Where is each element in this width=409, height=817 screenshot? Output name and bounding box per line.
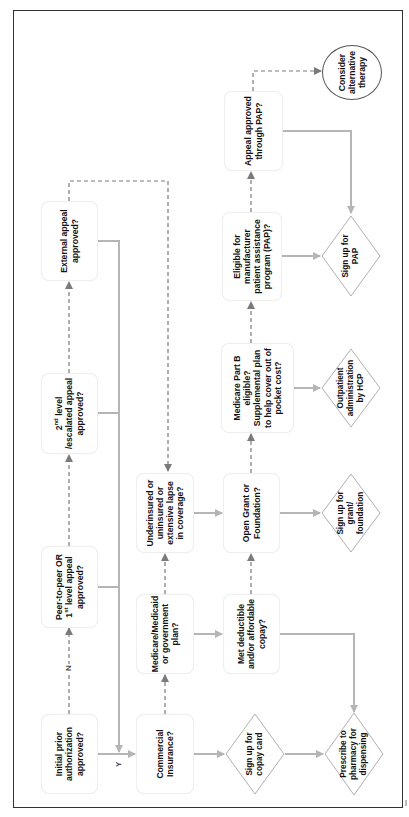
node-label: External appeal approved? [59,205,79,277]
node-prescribe-pharmacy[interactable]: Prescribe to pharmacy for dispensing [324,712,384,796]
node-label: Commercial Insurance? [155,718,175,790]
node-consider-alternative-therapy[interactable]: Consider alternative therapy [322,45,382,100]
node-sign-up-grant[interactable]: Sign up for grant/ foundation [321,473,381,553]
node-label: Sign up for grant/ foundation [321,473,381,553]
node-appeal-pap[interactable]: Appeal approved through PAP? [224,91,283,171]
edge-appeal-signpap [283,131,351,213]
node-label: Peer-to-peer OR 1st level appeal approve… [54,550,84,624]
node-commercial-insurance[interactable]: Commercial Insurance? [136,714,194,794]
edge-label-no: N [64,664,73,672]
node-label: Sign up for PAP [321,215,381,297]
node-underinsured[interactable]: Underinsured or uninsured or extensive l… [136,473,194,553]
edge-mark [405,800,407,806]
node-label: Sign up for copay card [225,713,285,795]
node-label: Outpatient administration by HCP [321,348,381,428]
edge-appeal-alternative [253,71,321,91]
edge-label-yes: Y [114,762,123,767]
node-medicare-part-b[interactable]: Medicare Part B eligible? Supplemental p… [221,343,294,433]
node-label: Appeal approved through PAP? [243,95,263,167]
node-label: Eligible for manufacturer patient assist… [232,216,273,297]
node-peer-to-peer-appeal[interactable]: Peer-to-peer OR 1st level appeal approve… [41,546,98,628]
node-label: Medicare Part B eligible? Supplemental p… [232,347,283,429]
node-label: Met deductible and/or affordable copay? [236,598,266,670]
node-label: Prescribe to pharmacy for dispensing [324,712,384,796]
node-label: Consider alternative therapy [337,51,367,94]
edge-external-return [98,241,119,751]
edge-deductible-prescribe [280,634,354,712]
node-label: Medicare/Medicaid or government plan? [150,596,180,672]
node-label: Initial prior authorization approved? [54,718,84,790]
node-met-deductible[interactable]: Met deductible and/or affordable copay? [223,594,280,674]
node-label: 2nd level /escalated appeal approved? [54,377,84,450]
node-outpatient-administration[interactable]: Outpatient administration by HCP [321,348,381,428]
node-external-appeal[interactable]: External appeal approved? [41,201,98,281]
node-open-grant[interactable]: Open Grant or Foundation? [223,473,280,553]
node-copay-card[interactable]: Sign up for copay card [225,713,285,795]
node-initial-prior-authorization[interactable]: Initial prior authorization approved? [41,714,98,794]
node-label: Open Grant or Foundation? [241,477,261,549]
node-eligible-pap[interactable]: Eligible for manufacturer patient assist… [222,212,282,301]
node-label: Underinsured or uninsured or extensive l… [145,477,186,549]
node-second-level-appeal[interactable]: 2nd level /escalated appeal approved? [41,373,98,454]
node-medicare-medicaid[interactable]: Medicare/Medicaid or government plan? [136,594,194,674]
node-sign-up-pap[interactable]: Sign up for PAP [321,215,381,297]
diagram-frame: N Y Initial prior authorization approved… [13,10,403,808]
flowchart-canvas: N Y Initial prior authorization approved… [14,11,404,809]
